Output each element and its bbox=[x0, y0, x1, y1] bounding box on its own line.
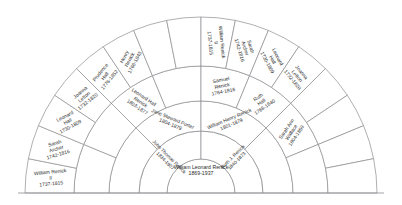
cell-text-line: 1869-1937 bbox=[189, 170, 214, 176]
fan-chart: William Leonard Renick1869-1937John Thom… bbox=[0, 0, 402, 205]
fan-chart-canvas: William Leonard Renick1869-1937John Thom… bbox=[0, 0, 402, 205]
